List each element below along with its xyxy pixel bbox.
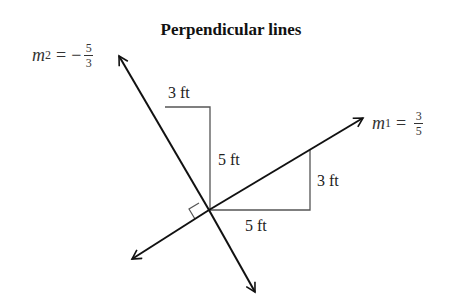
m2-fraction: 53 (84, 42, 93, 69)
m1-num: 3 (416, 110, 422, 122)
upper-rise-label: 5 ft (218, 151, 240, 169)
lower-run-label: 5 ft (245, 217, 267, 235)
m1-sub: 1 (385, 116, 391, 131)
m1-eq: = (396, 113, 406, 134)
m2-eq: = (56, 45, 66, 66)
perpendicular-lines-diagram: Perpendicular lines 3 ft 5 ft 5 ft 3 ft … (0, 0, 462, 301)
slope-m2-label: m2 = − 53 (32, 42, 93, 69)
m1-fraction: 35 (414, 110, 423, 137)
m2-den: 3 (86, 57, 92, 69)
m1-den: 5 (416, 125, 422, 137)
line-m1-backward (132, 210, 209, 259)
slope-m1-label: m1 = 35 (372, 110, 423, 137)
m2-sub: 2 (45, 48, 51, 63)
m1-var: m (372, 113, 385, 134)
m2-num: 5 (86, 42, 92, 54)
line-m2-forward (119, 56, 209, 210)
upper-slope-triangle (165, 107, 210, 210)
upper-run-label: 3 ft (168, 84, 190, 102)
m2-sign: − (71, 45, 81, 66)
lower-rise-label: 3 ft (317, 172, 339, 190)
m2-var: m (32, 45, 45, 66)
